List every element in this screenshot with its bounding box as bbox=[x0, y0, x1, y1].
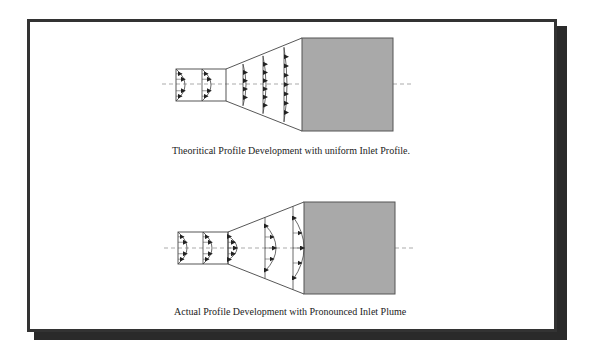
velocity-profile-curve bbox=[263, 56, 266, 114]
velocity-profile-curve bbox=[243, 64, 246, 106]
inlet-duct bbox=[176, 69, 226, 101]
caption-theoretical: Theoritical Profile Development with uni… bbox=[172, 145, 410, 156]
caption-actual: Actual Profile Development with Pronounc… bbox=[174, 306, 406, 317]
theoretical-profile-diagram bbox=[162, 38, 413, 131]
actual-profile-diagram bbox=[164, 202, 415, 294]
settling-chamber bbox=[304, 202, 395, 294]
settling-chamber bbox=[302, 38, 393, 131]
flow-diagram bbox=[0, 0, 592, 357]
